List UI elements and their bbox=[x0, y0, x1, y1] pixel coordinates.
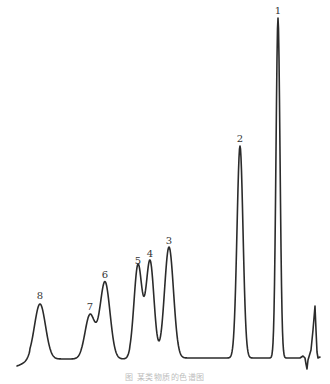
peak-label-5: 5 bbox=[135, 256, 141, 266]
peak-label-2: 2 bbox=[237, 134, 243, 144]
peak-label-8: 8 bbox=[37, 291, 43, 301]
peak-label-3: 3 bbox=[166, 236, 172, 246]
peak-label-6: 6 bbox=[102, 270, 108, 280]
chromatogram bbox=[0, 0, 330, 384]
peak-label-7: 7 bbox=[87, 302, 93, 312]
peak-label-4: 4 bbox=[147, 249, 153, 259]
figure-caption: 图 某类物质的色谱图 bbox=[0, 371, 330, 382]
chromatogram-trace bbox=[17, 18, 320, 369]
peak-label-1: 1 bbox=[275, 6, 281, 16]
